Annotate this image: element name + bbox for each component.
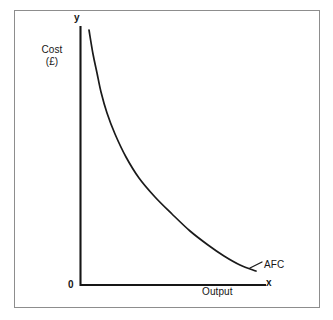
x-axis-tip-label: x xyxy=(266,277,272,289)
figure-container: y x 0 Cost (£) Output AFC xyxy=(0,0,333,320)
axes-group xyxy=(80,26,266,286)
afc-curve-path xyxy=(89,30,256,271)
y-axis-tip-label: y xyxy=(74,12,80,24)
afc-curve-label: AFC xyxy=(264,259,284,271)
origin-label: 0 xyxy=(68,279,74,291)
y-axis-title: Cost (£) xyxy=(28,44,76,68)
x-axis-title: Output xyxy=(202,286,233,298)
afc-leader-line xyxy=(250,262,262,268)
afc-curve-group xyxy=(89,30,262,271)
y-axis-title-line1: Cost xyxy=(42,44,63,55)
y-axis-title-line2: (£) xyxy=(28,56,76,68)
